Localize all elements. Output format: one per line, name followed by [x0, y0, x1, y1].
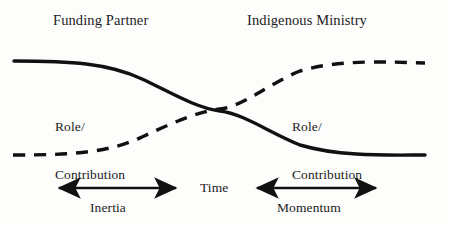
heading-indigenous-ministry: Indigenous Ministry — [247, 12, 367, 29]
role-contribution-label-left: Role/ Contribution — [55, 87, 125, 214]
time-axis-label: Time — [200, 180, 228, 196]
role-right-line-2: Contribution — [292, 167, 362, 183]
role-right-line-1: Role/ — [292, 119, 362, 135]
diagram-canvas: Funding Partner Indigenous Ministry Role… — [0, 0, 449, 225]
role-left-line-1: Role/ — [55, 119, 125, 135]
role-contribution-label-right: Role/ Contribution — [292, 87, 362, 214]
role-left-line-2: Contribution — [55, 167, 125, 183]
inertia-label: Inertia — [90, 200, 126, 216]
momentum-label: Momentum — [277, 200, 341, 216]
heading-funding-partner: Funding Partner — [53, 12, 148, 29]
